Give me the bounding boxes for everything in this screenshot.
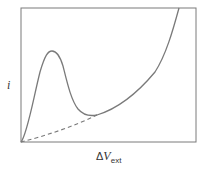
x-label-sub: ext (111, 156, 122, 165)
dashed-baseline (21, 115, 97, 142)
x-label-var: V (103, 149, 110, 163)
chart-canvas (0, 0, 206, 170)
x-axis-label: ΔVext (96, 149, 121, 165)
solid-curve (21, 8, 179, 142)
plot-frame (21, 8, 196, 142)
y-axis-label: i (7, 78, 10, 93)
